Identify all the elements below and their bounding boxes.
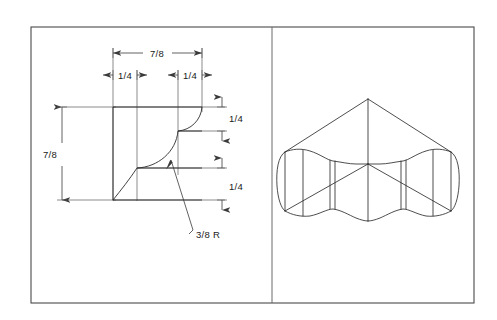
drawing-sheet: 7/8 1/4 1/4: [0, 0, 497, 320]
dimension-left-step-width: 1/4: [103, 70, 147, 81]
iso-left-end-cap: [277, 152, 285, 211]
dimension-overall-height: 7/8: [43, 107, 67, 200]
iso-right-lobe-verticals: [401, 150, 433, 216]
orthographic-profile-view: 7/8 1/4 1/4: [43, 48, 243, 240]
dimension-overall-width: 7/8: [113, 48, 202, 59]
extension-lines: [62, 48, 225, 201]
iso-top-faces: [285, 99, 451, 164]
sheet-border: [31, 27, 474, 303]
profile-outline: [113, 107, 202, 200]
dim-overall-height-text: 7/8: [43, 149, 57, 160]
iso-right-end-cap: [451, 152, 459, 211]
isometric-pictorial-view: [277, 99, 459, 221]
dimension-top-step-height: 1/4: [217, 97, 243, 141]
dimension-right-step-width: 1/4: [168, 70, 212, 81]
dim-left-step-width-text: 1/4: [118, 70, 132, 81]
drawing-canvas: 7/8 1/4 1/4: [0, 0, 497, 320]
dim-top-step-height-text: 1/4: [229, 113, 243, 124]
dim-bottom-step-height-text: 1/4: [229, 181, 243, 192]
dim-overall-width-text: 7/8: [150, 48, 164, 59]
dimension-bottom-step-height: 1/4: [217, 158, 243, 210]
iso-left-lobe-verticals: [303, 150, 335, 216]
radius-note-text: 3/8 R: [196, 229, 220, 240]
dim-right-step-width-text: 1/4: [183, 70, 197, 81]
